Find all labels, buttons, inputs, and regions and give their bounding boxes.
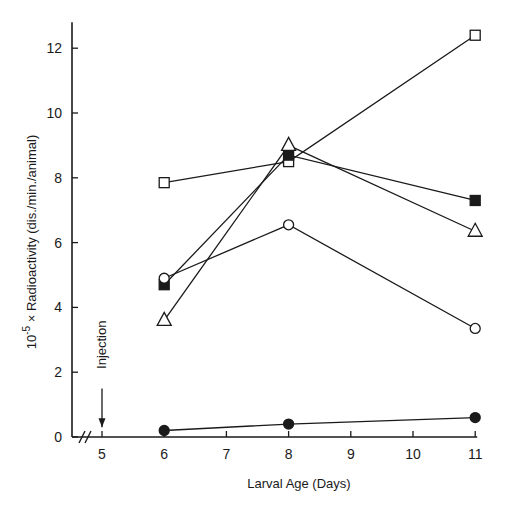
line-chart: 024681012567891011 Larval Age (Days) 10-… xyxy=(0,0,512,509)
y-axis-title: 10-5 × Radioactivity (dis./min./animal) xyxy=(21,135,39,349)
y-tick-label: 0 xyxy=(54,429,62,445)
series-line xyxy=(164,418,475,431)
x-tick-label: 6 xyxy=(160,446,168,462)
open-circle-marker xyxy=(159,273,169,283)
series-filled-circle xyxy=(159,413,480,436)
x-axis-title: Larval Age (Days) xyxy=(247,476,350,491)
series-open-circle xyxy=(159,220,480,334)
x-tick-label: 5 xyxy=(98,446,106,462)
y-tick-label: 8 xyxy=(54,170,62,186)
y-axis-title-base: 10 xyxy=(24,335,39,349)
y-tick-label: 10 xyxy=(46,105,62,121)
injection-arrow-icon xyxy=(99,388,106,427)
filled-circle-marker xyxy=(159,426,169,436)
filled-square-marker xyxy=(470,195,480,205)
open-circle-marker xyxy=(470,323,480,333)
x-tick-label: 10 xyxy=(405,446,421,462)
open-square-marker xyxy=(159,178,169,188)
y-tick-label: 6 xyxy=(54,235,62,251)
series-layer xyxy=(157,30,482,435)
open-circle-marker xyxy=(284,220,294,230)
filled-square-marker xyxy=(284,150,294,160)
x-tick-label: 8 xyxy=(285,446,293,462)
series-open-square xyxy=(159,30,480,187)
open-triangle-marker xyxy=(282,137,296,150)
x-tick-label: 7 xyxy=(223,446,231,462)
series-line xyxy=(164,145,475,320)
injection-annotation: Injection xyxy=(94,321,109,369)
series-filled-square xyxy=(159,150,480,290)
series-line xyxy=(164,35,475,182)
axes: 024681012567891011 xyxy=(46,22,482,462)
filled-circle-marker xyxy=(470,413,480,423)
filled-circle-marker xyxy=(284,419,294,429)
y-axis-title-rest: × Radioactivity (dis./min./animal) xyxy=(24,135,39,326)
series-open-triangle xyxy=(157,137,482,325)
open-triangle-marker xyxy=(468,223,482,236)
y-tick-label: 2 xyxy=(54,364,62,380)
y-tick-label: 12 xyxy=(46,40,62,56)
open-square-marker xyxy=(470,30,480,40)
x-tick-label: 9 xyxy=(347,446,355,462)
x-tick-label: 11 xyxy=(468,446,483,462)
y-tick-label: 4 xyxy=(54,299,62,315)
series-line xyxy=(164,225,475,329)
